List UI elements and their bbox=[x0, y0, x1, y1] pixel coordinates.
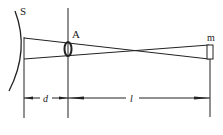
arrow-d-left-icon bbox=[24, 97, 33, 100]
distance-d-label: d bbox=[43, 93, 49, 104]
lens-label: A bbox=[72, 28, 80, 40]
arrow-l-left-icon bbox=[68, 97, 84, 100]
surface-label: S bbox=[20, 5, 26, 17]
arrow-d-right-icon bbox=[59, 97, 68, 100]
optics-diagram: S A m d l bbox=[0, 0, 223, 135]
upper-ray bbox=[24, 38, 209, 59]
surface-s-curve bbox=[9, 11, 21, 91]
distance-l-label: l bbox=[130, 93, 133, 104]
arrow-l-right-icon bbox=[194, 97, 210, 100]
lower-ray bbox=[24, 45, 209, 59]
target-label: m bbox=[207, 32, 215, 43]
target-m-box bbox=[207, 45, 213, 59]
